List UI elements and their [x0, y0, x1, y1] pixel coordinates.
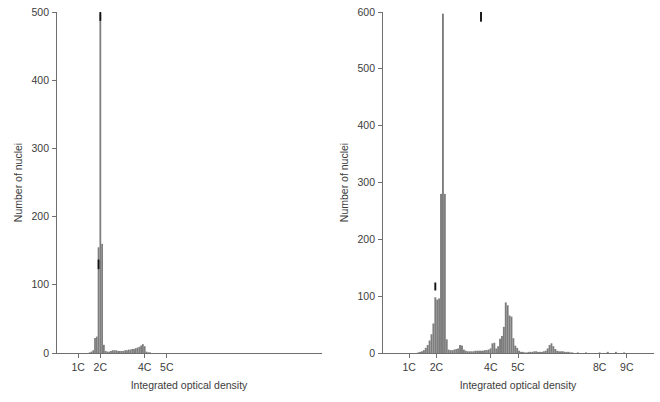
y-tick-label: 600 [357, 6, 375, 18]
y-tick-label: 200 [31, 210, 49, 222]
histogram-bar [96, 337, 98, 353]
histogram-bar [438, 298, 440, 353]
x-tick-label: 2C [430, 361, 444, 373]
histogram-bar [501, 336, 503, 353]
histogram-bar [434, 297, 436, 353]
histogram-bar [463, 350, 465, 353]
histogram-bar [133, 349, 135, 353]
peak-marker [434, 283, 436, 291]
x-tick-label: 5C [511, 361, 525, 373]
histogram-bar [448, 350, 450, 353]
histogram-bar [436, 300, 438, 353]
histogram-bar [140, 346, 142, 354]
histogram-bar [432, 323, 434, 353]
histogram-bar [551, 343, 553, 353]
histogram-bar [455, 349, 457, 353]
histogram-bar [453, 350, 455, 353]
chart-panel-left: 01002003004005001C2C4C5CIntegrated optic… [0, 0, 330, 402]
histogram-bar [497, 346, 499, 353]
histogram-bar [99, 13, 101, 353]
y-tick-label: 500 [357, 62, 375, 74]
y-tick-label: 0 [43, 347, 49, 359]
histogram-bar [101, 244, 103, 353]
histogram-bar [103, 345, 105, 353]
x-axis-title: Integrated optical density [131, 379, 248, 391]
histogram-bar [459, 345, 461, 353]
histogram-bar [461, 346, 463, 353]
histogram-bar [554, 349, 556, 353]
y-axis-title: Number of nuclei [12, 143, 24, 222]
axes-left: 01002003004005001C2C4C5CIntegrated optic… [12, 6, 322, 391]
peak-marker [99, 12, 101, 21]
x-axis-title: Integrated optical density [460, 379, 577, 391]
histogram-bar [446, 339, 448, 353]
histogram-bar [503, 327, 505, 353]
chart-svg-right: 01002003004005006001C2C4C5C8C9CIntegrate… [330, 0, 660, 402]
histogram-bar [511, 317, 513, 353]
y-tick-label: 400 [357, 119, 375, 131]
histogram-bar [425, 348, 427, 353]
histogram-bars-right [417, 14, 625, 354]
histogram-bars-left [89, 13, 151, 353]
histogram-bar [442, 14, 444, 353]
histogram-bar [429, 341, 431, 354]
y-axis-title: Number of nuclei [338, 143, 350, 222]
x-tick-label: 1C [402, 361, 416, 373]
histogram-bar [499, 339, 501, 353]
histogram-bar [457, 348, 459, 353]
histogram-bar [137, 348, 139, 353]
histogram-bar [488, 350, 490, 353]
histogram-bar [493, 343, 495, 353]
histogram-bar [135, 348, 137, 353]
chart-svg-left: 01002003004005001C2C4C5CIntegrated optic… [0, 0, 330, 402]
histogram-bar [427, 345, 429, 353]
histogram-bar [138, 347, 140, 353]
x-tick-label: 8C [593, 361, 607, 373]
x-tick-label: 4C [138, 361, 152, 373]
x-tick-label: 1C [71, 361, 85, 373]
histogram-bar [142, 344, 144, 353]
x-tick-label: 9C [620, 361, 634, 373]
histogram-figure: 01002003004005001C2C4C5CIntegrated optic… [0, 0, 660, 402]
y-tick-label: 200 [357, 233, 375, 245]
peak-marker [480, 12, 482, 22]
y-tick-label: 400 [31, 74, 49, 86]
histogram-bar [495, 348, 497, 353]
y-tick-label: 300 [357, 176, 375, 188]
histogram-bar [507, 305, 509, 353]
x-tick-label: 5C [160, 361, 174, 373]
x-tick-label: 2C [94, 361, 108, 373]
histogram-bar [431, 334, 433, 353]
axes-right: 01002003004005006001C2C4C5C8C9CIntegrate… [338, 6, 654, 391]
histogram-bar [505, 302, 507, 353]
histogram-bar [491, 343, 493, 353]
histogram-bar [130, 350, 132, 353]
y-tick-label: 500 [31, 6, 49, 18]
y-tick-label: 300 [31, 142, 49, 154]
histogram-bar [552, 346, 554, 353]
histogram-bar [144, 346, 146, 353]
histogram-bar [509, 315, 511, 353]
y-tick-label: 100 [31, 278, 49, 290]
y-tick-label: 100 [357, 290, 375, 302]
histogram-bar [94, 338, 96, 353]
histogram-bar [440, 194, 442, 353]
histogram-bar [549, 345, 551, 353]
x-tick-label: 4C [484, 361, 498, 373]
chart-panel-right: 01002003004005006001C2C4C5C8C9CIntegrate… [330, 0, 660, 402]
histogram-bar [514, 346, 516, 353]
histogram-bar [131, 349, 133, 353]
histogram-bar [516, 348, 518, 353]
histogram-bar [128, 350, 130, 353]
histogram-bar [444, 194, 446, 353]
histogram-bar [512, 338, 514, 353]
peak-marker [98, 260, 100, 270]
histogram-bar [490, 348, 492, 353]
histogram-bar [547, 348, 549, 353]
y-tick-label: 0 [369, 347, 375, 359]
